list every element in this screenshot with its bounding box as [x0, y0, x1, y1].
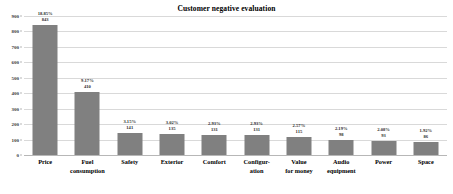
- y-axis-tick-label: 400: [12, 91, 20, 96]
- y-axis-tick-label: 800: [12, 29, 20, 34]
- y-axis-tick-mark: [20, 77, 22, 78]
- bar-percent-label: 1.92%: [420, 128, 433, 133]
- bar-value-label: 131: [211, 127, 218, 132]
- bar[interactable]: [371, 141, 396, 155]
- bar-value-label: 141: [126, 125, 133, 130]
- y-axis-tick-mark: [20, 93, 22, 94]
- bar-group[interactable]: 1.92%86: [405, 16, 447, 155]
- y-axis: 9008007006005004003002001000: [0, 16, 22, 155]
- bar-value-label: 131: [253, 127, 260, 132]
- bar[interactable]: [413, 142, 438, 155]
- bar-percent-label: 2.57%: [293, 123, 306, 128]
- chart-container: Customer negative evaluation 90080070060…: [0, 0, 453, 194]
- bar-group[interactable]: 18.85%843: [24, 16, 66, 155]
- y-axis-tick-label: 300: [12, 106, 20, 111]
- bar-percent-label: 2.93%: [208, 121, 221, 126]
- y-axis-tick-label: 100: [12, 137, 20, 142]
- bar-group[interactable]: 2.93%131: [236, 16, 278, 155]
- x-axis-category-label: Fuel consumption: [66, 158, 108, 175]
- bar-group[interactable]: 3.15%141: [109, 16, 151, 155]
- x-axis-category-label: Audio equipment: [320, 158, 362, 175]
- y-axis-tick-mark: [20, 108, 22, 109]
- bar-percent-label: 3.02%: [166, 120, 179, 125]
- x-axis-category-label: Value for money: [278, 158, 320, 175]
- bar-value-label: 86: [424, 134, 429, 139]
- bar[interactable]: [75, 92, 100, 155]
- x-axis-category-label: Comfort: [193, 158, 235, 167]
- y-axis-tick-label: 200: [12, 122, 20, 127]
- x-axis-category-label: Safety: [109, 158, 151, 167]
- bar-value-label: 410: [84, 84, 91, 89]
- y-axis-tick-mark: [20, 31, 22, 32]
- y-axis-tick-label: 900: [12, 14, 20, 19]
- bar-group[interactable]: 3.02%135: [151, 16, 193, 155]
- bar-value-label: 843: [42, 17, 49, 22]
- bar-value-label: 98: [339, 132, 344, 137]
- bar[interactable]: [329, 140, 354, 155]
- y-axis-tick-mark: [20, 16, 22, 17]
- y-axis-tick-mark: [20, 62, 22, 63]
- bar-percent-label: 2.19%: [335, 126, 348, 131]
- plot-area: 18.85%8439.17%4103.15%1413.02%1352.93%13…: [24, 16, 447, 155]
- bar-group[interactable]: 9.17%410: [66, 16, 108, 155]
- x-axis-category-label: Configur- ation: [236, 158, 278, 175]
- bar-group[interactable]: 2.93%131: [193, 16, 235, 155]
- bar-group[interactable]: 2.57%115: [278, 16, 320, 155]
- axis-baseline: [24, 155, 447, 156]
- x-axis-category-label: Space: [405, 158, 447, 167]
- y-axis-tick-label: 700: [12, 44, 20, 49]
- y-axis-tick-mark: [20, 46, 22, 47]
- x-axis-category-label: Price: [24, 158, 66, 167]
- bar[interactable]: [33, 25, 58, 155]
- bar-percent-label: 18.85%: [38, 11, 53, 16]
- y-axis-tick-mark: [20, 124, 22, 125]
- x-axis-category-label: Power: [362, 158, 404, 167]
- x-axis: PriceFuel consumptionSafetyExteriorComfo…: [24, 158, 447, 192]
- x-axis-category-label: Exterior: [151, 158, 193, 167]
- y-axis-tick-label: 500: [12, 75, 20, 80]
- bar-group[interactable]: 2.19%98: [320, 16, 362, 155]
- bar-percent-label: 3.15%: [123, 119, 136, 124]
- chart-title: Customer negative evaluation: [0, 4, 453, 14]
- y-axis-tick-label: 600: [12, 60, 20, 65]
- bar[interactable]: [117, 133, 142, 155]
- bar-percent-label: 2.93%: [250, 121, 263, 126]
- bar-group[interactable]: 2.08%93: [362, 16, 404, 155]
- bar-value-label: 135: [169, 126, 176, 131]
- y-axis-tick-mark: [20, 139, 22, 140]
- y-axis-tick-mark: [20, 155, 22, 156]
- bar[interactable]: [160, 134, 185, 155]
- y-axis-tick-label: 0: [17, 153, 20, 158]
- bar-value-label: 93: [381, 133, 386, 138]
- bar[interactable]: [202, 135, 227, 155]
- bar-percent-label: 2.08%: [377, 127, 390, 132]
- bar[interactable]: [286, 137, 311, 155]
- bar-percent-label: 9.17%: [81, 78, 94, 83]
- bar[interactable]: [244, 135, 269, 155]
- bar-value-label: 115: [296, 129, 303, 134]
